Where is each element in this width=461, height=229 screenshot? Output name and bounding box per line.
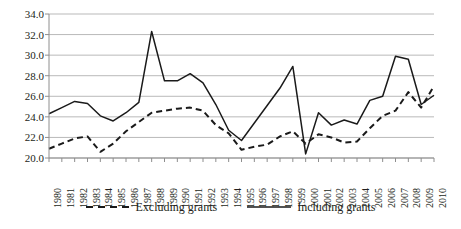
y-tick-label: 26.0 (4, 91, 44, 102)
y-tick-label: 22.0 (4, 132, 44, 143)
y-tick-label: 30.0 (4, 50, 44, 61)
y-tick-label: 34.0 (4, 9, 44, 20)
y-tick-label: 32.0 (4, 30, 44, 41)
y-tick-label: 28.0 (4, 71, 44, 82)
chart-legend: Excluding grants Including grants (0, 196, 461, 218)
line-chart: 34.032.030.028.026.024.022.020.0 1980198… (0, 0, 461, 229)
legend-entry-excluding-grants: Excluding grants (86, 201, 218, 213)
legend-swatch-dashed-icon (86, 202, 130, 212)
legend-swatch-solid-icon (247, 202, 291, 212)
legend-label-including-grants: Including grants (297, 201, 375, 213)
axis-lines (49, 14, 434, 158)
y-tick-label: 20.0 (4, 153, 44, 164)
y-axis-labels: 34.032.030.028.026.024.022.020.0 (0, 0, 44, 229)
y-tick-label: 24.0 (4, 112, 44, 123)
legend-label-excluding-grants: Excluding grants (136, 201, 218, 213)
plot-area (49, 14, 434, 158)
legend-entry-including-grants: Including grants (247, 201, 375, 213)
